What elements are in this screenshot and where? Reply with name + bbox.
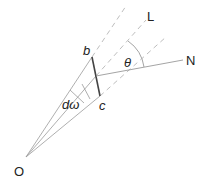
normal-line-N — [96, 60, 183, 76]
dashed-line-L — [96, 20, 146, 76]
label-c: c — [99, 98, 106, 113]
label-N: N — [186, 53, 195, 68]
ray-to-b — [26, 57, 92, 157]
diagram-canvas: O b c dω θ L N — [0, 0, 205, 182]
label-origin: O — [14, 164, 24, 179]
surface-element-bc — [92, 57, 100, 96]
label-theta: θ — [124, 55, 131, 70]
dashed-lines — [92, 6, 166, 96]
ray-to-center — [26, 76, 96, 157]
solid-angle-diagram: O b c dω θ L N — [0, 0, 205, 182]
label-b: b — [83, 43, 90, 58]
label-L: L — [147, 9, 154, 24]
label-d-omega: dω — [62, 97, 79, 112]
d-omega-tick-2 — [82, 84, 90, 99]
dashed-line-c — [100, 37, 166, 96]
dashed-line-b — [92, 6, 126, 57]
